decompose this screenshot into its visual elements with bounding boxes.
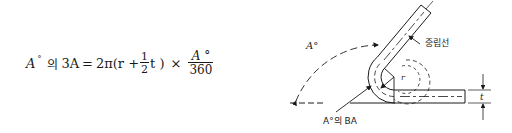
angled-flange-outer-edge xyxy=(377,5,421,57)
angled-extension-line xyxy=(426,1,433,9)
radius-arrow xyxy=(381,77,394,88)
angle-arc xyxy=(296,45,378,101)
bent-sheet-diagram: A° 중립선 A°의 BA r t xyxy=(0,0,512,133)
radius-label: r xyxy=(401,73,406,82)
radius-dashed-circle xyxy=(394,60,430,104)
angle-label: A° xyxy=(305,40,318,51)
ba-leader xyxy=(336,86,371,112)
neutral-line-leader xyxy=(409,36,420,44)
bend-allowance-label: A°의 BA xyxy=(323,116,358,126)
angled-neutral-line xyxy=(384,12,424,60)
neutral-line-label: 중립선 xyxy=(425,38,449,48)
thickness-label: t xyxy=(480,92,484,102)
center-angled-line xyxy=(384,68,394,77)
